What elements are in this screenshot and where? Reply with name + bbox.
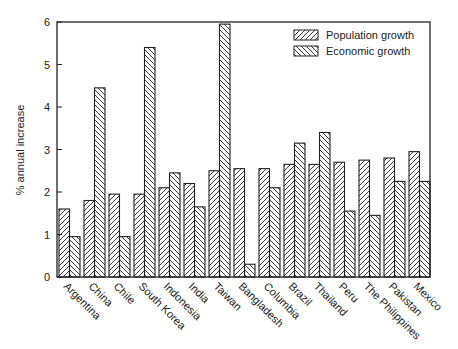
bar-population-growth (384, 158, 395, 277)
bar-economic-growth (320, 133, 331, 278)
chart-container: % annual increase 0123456 ArgentinaChina… (0, 0, 458, 349)
bar-economic-growth (70, 237, 81, 277)
legend-label-population: Population growth (326, 29, 414, 41)
bars (59, 24, 430, 277)
bar-population-growth (359, 160, 370, 277)
bar-population-growth (309, 164, 320, 277)
y-tick-label: 1 (44, 229, 50, 241)
legend: Population growth Economic growth (294, 29, 414, 57)
bar-population-growth (409, 152, 420, 277)
y-tick-label: 5 (44, 59, 50, 71)
bar-economic-growth (95, 88, 106, 277)
bar-economic-growth (220, 24, 231, 277)
bar-population-growth (59, 209, 70, 277)
bar-economic-growth (170, 173, 181, 277)
bar-economic-growth (370, 215, 381, 277)
bar-chart: % annual increase 0123456 ArgentinaChina… (0, 0, 458, 349)
bar-population-growth (84, 201, 95, 278)
bar-economic-growth (295, 143, 306, 277)
y-tick-label: 0 (44, 271, 50, 283)
x-tick-label: Chile (112, 280, 138, 306)
bar-economic-growth (345, 211, 356, 277)
bar-population-growth (259, 169, 270, 277)
legend-swatch-population (294, 30, 318, 40)
legend-swatch-economic (294, 46, 318, 56)
bar-population-growth (109, 194, 120, 277)
y-tick-label: 2 (44, 186, 50, 198)
bar-economic-growth (245, 264, 256, 277)
bar-population-growth (134, 194, 145, 277)
bar-population-growth (209, 171, 220, 277)
y-tick-label: 3 (44, 144, 50, 156)
y-axis-label: % annual increase (14, 105, 26, 196)
legend-label-economic: Economic growth (326, 45, 410, 57)
x-axis-tick-labels: ArgentinaChinaChileSouth KoreaIndonesiaI… (62, 280, 445, 342)
bar-population-growth (184, 184, 195, 278)
bar-population-growth (159, 188, 170, 277)
bar-population-growth (334, 162, 345, 277)
y-tick-label: 4 (44, 101, 50, 113)
bar-population-growth (284, 164, 295, 277)
bar-economic-growth (420, 181, 431, 277)
bar-population-growth (234, 169, 245, 277)
bar-economic-growth (270, 188, 281, 277)
bar-economic-growth (395, 181, 406, 277)
bar-economic-growth (120, 237, 131, 277)
y-tick-label: 6 (44, 16, 50, 28)
bar-economic-growth (195, 207, 206, 277)
bar-economic-growth (145, 48, 156, 278)
